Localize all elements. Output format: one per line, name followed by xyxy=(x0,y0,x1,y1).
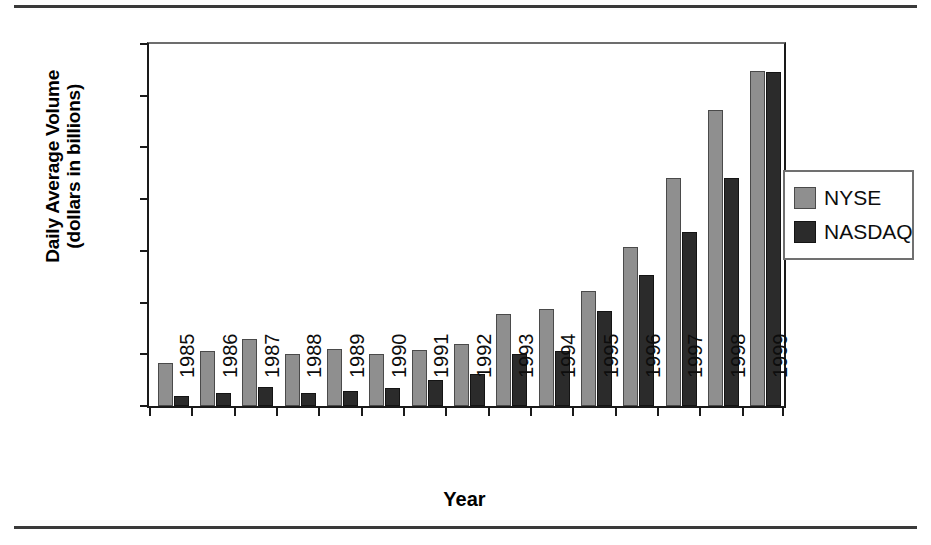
x-tick-mark xyxy=(318,406,320,416)
bar-nyse-1987 xyxy=(242,339,257,406)
y-tick-mark xyxy=(140,146,149,148)
bar-nasdaq-1985 xyxy=(174,396,189,406)
x-tick-label: 1988 xyxy=(303,334,326,379)
chart-legend: NYSE NASDAQ xyxy=(783,170,914,260)
x-tick-mark xyxy=(782,406,784,416)
x-tick-mark xyxy=(361,406,363,416)
bar-nyse-1988 xyxy=(285,354,300,406)
x-tick-label: 1992 xyxy=(473,334,496,379)
x-tick-mark xyxy=(276,406,278,416)
x-tick-mark xyxy=(191,406,193,416)
legend-item-nasdaq: NASDAQ xyxy=(794,215,902,249)
bar-nyse-1993 xyxy=(496,314,511,406)
top-divider-rule xyxy=(14,5,917,8)
x-tick-mark xyxy=(530,406,532,416)
y-tick-mark xyxy=(140,405,149,407)
legend-item-nyse: NYSE xyxy=(794,181,902,215)
x-tick-label: 1993 xyxy=(515,334,538,379)
bar-nyse-1996 xyxy=(623,247,638,406)
bar-nasdaq-1992 xyxy=(470,374,485,406)
bar-nasdaq-1989 xyxy=(343,391,358,407)
bar-nyse-1986 xyxy=(200,351,215,406)
bottom-divider-rule xyxy=(14,526,917,529)
x-tick-mark xyxy=(234,406,236,416)
bar-nyse-1994 xyxy=(539,309,554,406)
y-tick-mark xyxy=(140,198,149,200)
y-tick-mark xyxy=(140,302,149,304)
x-tick-label: 1985 xyxy=(176,334,199,379)
x-tick-label: 1999 xyxy=(769,334,792,379)
x-tick-label: 1990 xyxy=(388,334,411,379)
legend-swatch-nyse-icon xyxy=(794,187,816,209)
bar-nyse-1995 xyxy=(581,291,596,406)
chart-figure: Daily Average Volume (dollars in billion… xyxy=(0,0,931,545)
legend-label-nasdaq: NASDAQ xyxy=(824,220,913,244)
x-tick-label: 1987 xyxy=(261,334,284,379)
x-tick-label: 1986 xyxy=(219,334,242,379)
legend-swatch-nasdaq-icon xyxy=(794,221,816,243)
x-tick-mark xyxy=(445,406,447,416)
x-tick-label: 1991 xyxy=(430,334,453,379)
x-axis-title: Year xyxy=(147,488,782,511)
bar-nyse-1990 xyxy=(369,354,384,406)
x-tick-mark xyxy=(488,406,490,416)
x-tick-mark xyxy=(742,406,744,416)
x-tick-mark xyxy=(149,406,151,416)
bar-nasdaq-1986 xyxy=(216,393,231,406)
y-axis-title-line1: Daily Average Volume xyxy=(42,70,63,263)
y-tick-mark xyxy=(140,43,149,45)
bar-nyse-1989 xyxy=(327,349,342,406)
bar-nyse-1985 xyxy=(158,363,173,406)
legend-label-nyse: NYSE xyxy=(824,186,881,210)
bar-nyse-1997 xyxy=(666,178,681,406)
y-axis-title: Daily Average Volume (dollars in billion… xyxy=(42,21,85,311)
bar-nyse-1992 xyxy=(454,344,469,406)
y-tick-mark xyxy=(140,95,149,97)
y-tick-mark xyxy=(140,353,149,355)
x-tick-mark xyxy=(403,406,405,416)
x-tick-mark xyxy=(657,406,659,416)
bar-nyse-1991 xyxy=(412,350,427,406)
x-tick-label: 1998 xyxy=(727,334,750,379)
bar-nasdaq-1987 xyxy=(258,387,273,406)
bar-nasdaq-1997 xyxy=(682,232,697,406)
bar-nyse-1999 xyxy=(750,71,765,406)
bar-nasdaq-1988 xyxy=(301,393,316,406)
x-tick-label: 1994 xyxy=(557,334,580,379)
x-tick-label: 1996 xyxy=(642,334,665,379)
x-tick-mark xyxy=(699,406,701,416)
bar-nyse-1998 xyxy=(708,110,723,406)
y-tick-mark xyxy=(140,250,149,252)
y-axis-title-line2: (dollars in billions) xyxy=(63,21,84,311)
x-tick-mark xyxy=(572,406,574,416)
bar-nasdaq-1990 xyxy=(385,388,400,406)
x-tick-label: 1989 xyxy=(346,334,369,379)
x-tick-label: 1995 xyxy=(600,334,623,379)
bar-nasdaq-1991 xyxy=(428,380,443,406)
x-tick-mark xyxy=(615,406,617,416)
x-tick-label: 1997 xyxy=(684,334,707,379)
